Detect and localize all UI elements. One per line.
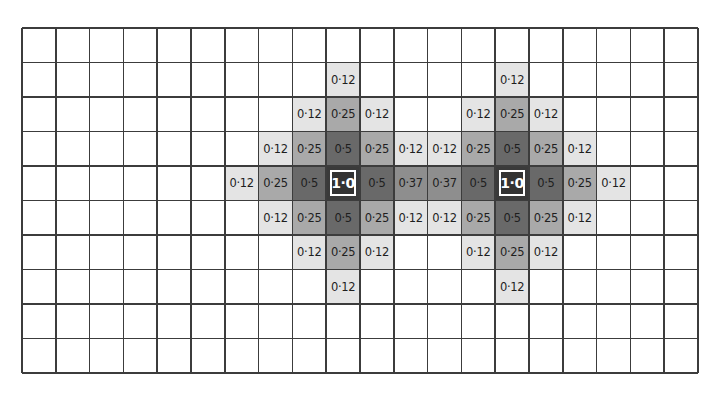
value-cell: 0·12: [326, 63, 360, 98]
cell-value: 0·12: [432, 211, 456, 225]
value-cell: 0·12: [292, 97, 326, 132]
cell-value: 0·5: [503, 211, 520, 225]
value-cell: 0·12: [461, 97, 495, 132]
cell-value: 0·5: [368, 176, 385, 190]
value-cell: 0·5: [326, 132, 360, 167]
source-cell: 1·0: [326, 166, 360, 201]
value-cell: 0·12: [428, 201, 462, 236]
grid-horizontal-line: [22, 62, 698, 64]
cell-value: 0·25: [567, 176, 591, 190]
value-cell: 0·25: [259, 166, 293, 201]
cell-value: 0·12: [567, 142, 591, 156]
cell-value: 0·25: [297, 142, 321, 156]
cell-value: 0·25: [500, 107, 524, 121]
cell-value: 0·12: [263, 142, 287, 156]
value-cell: 0·12: [563, 201, 597, 236]
cell-value: 0·12: [297, 107, 321, 121]
cell-value: 0·25: [534, 211, 558, 225]
value-cell: 0·25: [495, 97, 529, 132]
value-cell: 0·12: [428, 132, 462, 167]
value-cell: 0·12: [394, 201, 428, 236]
grid-horizontal-line: [22, 372, 698, 374]
value-cell: 0·5: [529, 166, 563, 201]
cell-value: 0·5: [334, 142, 351, 156]
value-cell: 0·25: [529, 132, 563, 167]
cell-value: 0·5: [470, 176, 487, 190]
grid-horizontal-line: [22, 234, 698, 236]
cell-value: 0·12: [500, 73, 524, 87]
grid-horizontal-line: [22, 131, 698, 133]
value-cell: 0·25: [326, 97, 360, 132]
influence-grid: 0·120·120·120·250·120·120·250·120·120·25…: [22, 28, 698, 373]
value-cell: 0·25: [292, 132, 326, 167]
value-cell: 0·37: [394, 166, 428, 201]
value-cell: 0·5: [495, 132, 529, 167]
cell-value: 0·5: [301, 176, 318, 190]
value-cell: 0·12: [495, 63, 529, 98]
cell-value: 0·12: [466, 107, 490, 121]
grid-horizontal-line: [22, 269, 698, 271]
cell-value: 0·12: [229, 176, 253, 190]
value-cell: 0·37: [428, 166, 462, 201]
grid-horizontal-line: [22, 165, 698, 167]
cell-value: 0·5: [537, 176, 554, 190]
cell-value: 0·12: [398, 142, 422, 156]
cell-value: 0·12: [331, 280, 355, 294]
value-cell: 0·12: [597, 166, 631, 201]
value-cell: 0·25: [461, 132, 495, 167]
cell-value: 0·25: [466, 142, 490, 156]
grid-horizontal-line: [22, 27, 698, 29]
cell-value: 0·25: [466, 211, 490, 225]
value-cell: 0·12: [563, 132, 597, 167]
value-cell: 0·12: [225, 166, 259, 201]
value-cell: 0·12: [259, 201, 293, 236]
value-cell: 0·12: [259, 132, 293, 167]
value-cell: 0·12: [529, 97, 563, 132]
cell-value: 0·12: [331, 73, 355, 87]
source-label: 1·0: [330, 170, 356, 196]
cell-value: 0·12: [365, 245, 389, 259]
cell-value: 0·25: [534, 142, 558, 156]
cell-value: 0·12: [500, 280, 524, 294]
cell-value: 0·12: [567, 211, 591, 225]
value-cell: 0·25: [326, 235, 360, 270]
cell-value: 0·5: [334, 211, 351, 225]
value-cell: 0·5: [495, 201, 529, 236]
value-cell: 0·5: [326, 201, 360, 236]
cell-value: 0·12: [466, 245, 490, 259]
cell-value: 0·5: [503, 142, 520, 156]
cell-value: 0·12: [297, 245, 321, 259]
value-cell: 0·5: [292, 166, 326, 201]
value-cell: 0·25: [292, 201, 326, 236]
cell-value: 0·25: [331, 245, 355, 259]
value-cell: 0·25: [360, 132, 394, 167]
cell-value: 0·25: [331, 107, 355, 121]
cell-value: 0·12: [534, 107, 558, 121]
cell-value: 0·12: [365, 107, 389, 121]
value-cell: 0·12: [495, 270, 529, 305]
cell-value: 0·12: [601, 176, 625, 190]
value-cell: 0·25: [529, 201, 563, 236]
cell-value: 0·12: [398, 211, 422, 225]
cell-value: 0·25: [365, 211, 389, 225]
value-cell: 0·12: [326, 270, 360, 305]
cell-value: 0·12: [432, 142, 456, 156]
cell-value: 0·25: [263, 176, 287, 190]
cell-value: 0·25: [500, 245, 524, 259]
cell-value: 0·25: [365, 142, 389, 156]
value-cell: 0·12: [529, 235, 563, 270]
cell-value: 0·25: [297, 211, 321, 225]
value-cell: 0·25: [461, 201, 495, 236]
source-cell: 1·0: [495, 166, 529, 201]
grid-horizontal-line: [22, 200, 698, 202]
grid-horizontal-line: [22, 303, 698, 305]
value-cell: 0·12: [360, 97, 394, 132]
value-cell: 0·25: [563, 166, 597, 201]
cell-value: 0·37: [398, 176, 422, 190]
value-cell: 0·12: [360, 235, 394, 270]
value-cell: 0·25: [360, 201, 394, 236]
grid-horizontal-line: [22, 338, 698, 340]
value-cell: 0·5: [461, 166, 495, 201]
cell-value: 0·12: [534, 245, 558, 259]
cell-value: 0·37: [432, 176, 456, 190]
